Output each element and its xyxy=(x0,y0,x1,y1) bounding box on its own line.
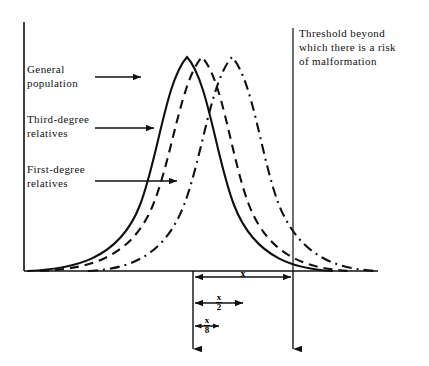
dimension-label-x: x xyxy=(233,268,253,279)
fraction-x-eighth: x 8 xyxy=(204,316,211,335)
fraction-denominator: 2 xyxy=(216,303,223,312)
label-general-population: General population xyxy=(27,62,78,90)
dimension-label-x-eighth: x 8 xyxy=(200,316,214,335)
curve-first-degree-relatives xyxy=(88,57,376,271)
curve-third-degree-relatives xyxy=(40,57,350,271)
label-third-degree-relatives: Third-degree relatives xyxy=(27,112,89,140)
fraction-denominator: 8 xyxy=(204,326,211,335)
fraction-x-half: x 2 xyxy=(216,293,223,312)
dimension-label-x-half: x 2 xyxy=(212,293,226,312)
label-first-degree-relatives: First-degree relatives xyxy=(27,162,85,190)
label-threshold: Threshold beyond which there is a risk o… xyxy=(299,26,396,68)
